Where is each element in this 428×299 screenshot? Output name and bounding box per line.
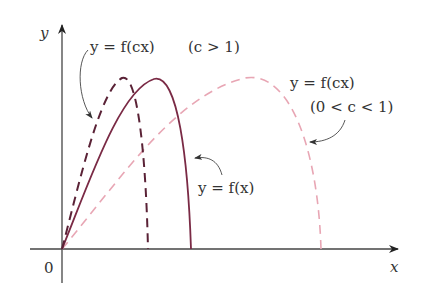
- y-axis-label: y: [39, 24, 49, 42]
- diagram-canvas: y x 0 y = f(cx) (c > 1) y = f(cx) (0 < c…: [0, 0, 428, 299]
- pointer-original: [195, 158, 222, 175]
- original-equation: y = f(x): [197, 179, 254, 197]
- pointer-stretched: [310, 120, 345, 142]
- stretched-condition: (0 < c < 1): [310, 98, 393, 116]
- curve-compressed: [62, 78, 148, 249]
- curve-stretched: [62, 77, 321, 249]
- x-axis-label: x: [390, 258, 399, 276]
- origin-label: 0: [44, 259, 54, 277]
- pointer-compressed: [80, 50, 92, 118]
- curve-original: [62, 79, 191, 249]
- compressed-equation: y = f(cx): [89, 38, 155, 56]
- compressed-condition: (c > 1): [188, 38, 240, 56]
- stretched-equation: y = f(cx): [289, 74, 355, 92]
